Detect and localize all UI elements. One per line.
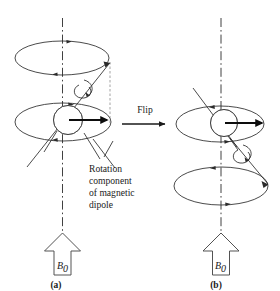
figure-root: B0 (a) Flip Rotation component of magnet… (0, 0, 280, 291)
annotation-line-4: dipole (89, 199, 113, 210)
cone-generator-lines-b (193, 88, 268, 184)
annotation-leader-2 (104, 141, 113, 157)
flip-transition: Flip (122, 104, 165, 124)
upper-precession-cone-a (15, 40, 109, 76)
precession-diagram-svg: B0 (a) Flip Rotation component of magnet… (0, 0, 280, 291)
annotation-line-1: Rotation (89, 163, 122, 174)
panel-caption-b: (b) (210, 280, 222, 291)
panel-caption-a: (a) (50, 280, 61, 291)
flip-label: Flip (137, 104, 153, 115)
panel-a: B0 (a) (15, 18, 115, 291)
annotation-line-2: component (89, 175, 132, 186)
annotation-line-3: of magnetic (89, 187, 135, 198)
rotation-component-annotation: Rotation component of magnetic dipole (84, 133, 135, 210)
panel-b: B0 (b) (174, 18, 269, 291)
